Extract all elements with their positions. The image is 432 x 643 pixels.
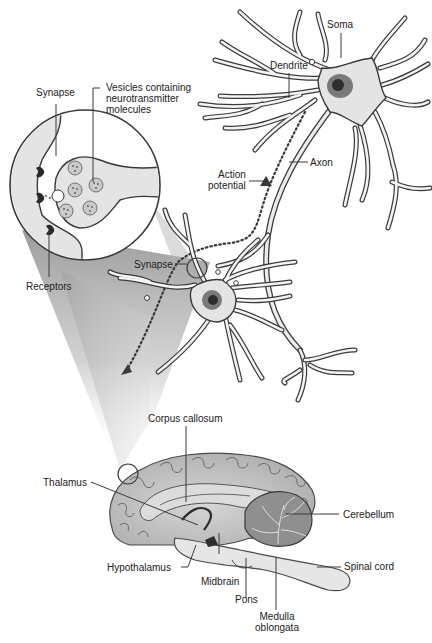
label-axon: Axon — [310, 157, 333, 168]
label-vesicles-2: neurotransmitter — [106, 93, 179, 104]
label-medulla-1: Medulla — [257, 611, 297, 622]
label-dendrite: Dendrite — [270, 60, 308, 71]
label-midbrain: Midbrain — [201, 576, 239, 587]
upper-neuron — [200, 12, 430, 228]
label-synapse-small: Synapse — [134, 259, 173, 270]
label-cerebellum: Cerebellum — [343, 509, 394, 520]
label-synapse-inset: Synapse — [36, 87, 75, 98]
label-action-potential-1: Action — [218, 169, 246, 180]
label-soma: Soma — [327, 19, 353, 30]
label-hypothalamus: Hypothalamus — [107, 562, 171, 573]
label-action-potential-2: potential — [208, 180, 246, 191]
axon — [218, 110, 355, 400]
label-receptors: Receptors — [26, 281, 72, 292]
label-vesicles-1: Vesicles containing — [106, 82, 191, 93]
label-medulla-2: oblongata — [252, 622, 302, 633]
label-spinal-cord: Spinal cord — [344, 561, 394, 572]
label-pons: Pons — [235, 594, 258, 605]
neuroanatomy-diagram: Soma Dendrite Axon Action potential Syna… — [0, 0, 432, 643]
label-thalamus: Thalamus — [43, 477, 87, 488]
label-corpus-callosum: Corpus callosum — [148, 413, 222, 424]
synapse-inset — [0, 110, 170, 270]
label-vesicles-3: molecules — [106, 104, 151, 115]
